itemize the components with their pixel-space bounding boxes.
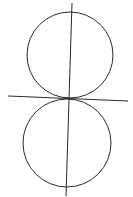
tangent-circles-figure [0, 0, 133, 197]
tangent-line [8, 96, 128, 101]
diagram-canvas [0, 0, 133, 197]
